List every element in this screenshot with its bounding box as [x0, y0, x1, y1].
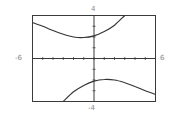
graph — [0, 0, 170, 117]
x-min-label: -6 — [15, 54, 22, 62]
axes — [33, 16, 156, 102]
lower-branch-curve — [63, 79, 155, 101]
upper-branch-curve — [33, 16, 125, 38]
y-min-label: -4 — [88, 104, 95, 112]
y-max-label: 4 — [91, 5, 95, 13]
x-max-label: 6 — [160, 54, 164, 62]
